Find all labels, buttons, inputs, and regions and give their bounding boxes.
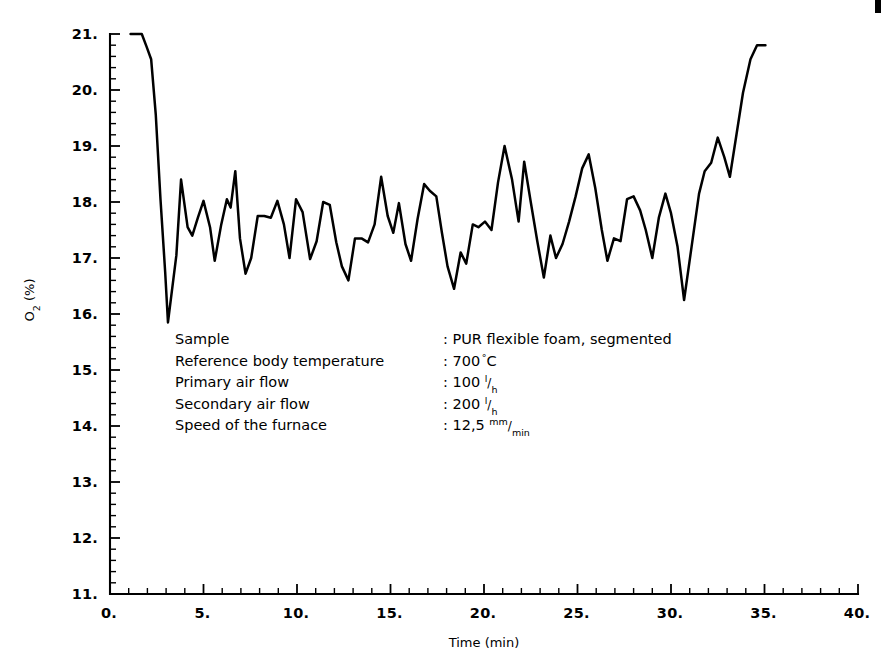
y-tick-label: 17. [72,250,98,266]
y-tick-label: 12. [72,530,98,546]
annotation-label: Primary air flow [175,374,289,390]
annotation-label: Sample [175,331,229,347]
annotation-block: Sample: PUR flexible foam, segmentedRefe… [175,331,672,438]
x-tick-label: 15. [376,605,402,621]
data-series [131,34,766,322]
axes [110,34,858,594]
y-tick-label: 15. [72,362,98,378]
y-tick-label: 14. [72,418,98,434]
x-tick-label: 35. [750,605,776,621]
x-tick-label: 10. [283,605,309,621]
annotation-value: : 200 l/h [443,394,497,416]
chart-page: 11.12.13.14.15.16.17.18.19.20.21.0.5.10.… [0,0,892,659]
y-tick-label: 16. [72,306,98,322]
page-edge-mark-bar [875,0,881,13]
series-line [131,34,766,322]
y-tick-label: 13. [72,474,98,490]
y-axis-title: O2 (%) [22,279,42,322]
oxygen-time-chart: 11.12.13.14.15.16.17.18.19.20.21.0.5.10.… [0,0,892,659]
y-tick-label: 11. [72,586,98,602]
y-tick-label: 18. [72,194,98,210]
axis-spine [110,34,858,594]
axis-tick-labels: 11.12.13.14.15.16.17.18.19.20.21.0.5.10.… [72,26,870,621]
x-tick-label: 25. [563,605,589,621]
annotation-label: Secondary air flow [175,396,310,412]
y-tick-label: 19. [72,138,98,154]
x-tick-label: 30. [657,605,683,621]
annotation-value: : PUR flexible foam, segmented [443,331,672,347]
x-tick-label: 20. [470,605,496,621]
x-tick-label: 40. [844,605,870,621]
annotation-value: : 12,5 mm/min [443,416,530,438]
annotation-value: : 100 l/h [443,373,497,395]
x-tick-label: 0. [101,605,117,621]
annotation-value: : 700°C [443,351,497,369]
page-edge-mark [875,0,881,13]
y-tick-label: 20. [72,82,98,98]
axis-ticks [110,34,858,594]
y-tick-label: 21. [72,26,98,42]
annotation-label: Speed of the furnace [175,417,327,433]
x-tick-label: 5. [195,605,211,621]
x-axis-title: Time (min) [448,635,520,650]
annotation-label: Reference body temperature [175,353,384,369]
